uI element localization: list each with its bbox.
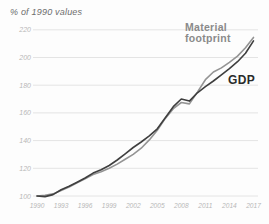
y-axis-unit-label: % of 1990 values xyxy=(10,7,82,17)
y-axis-tick-label: 180 xyxy=(19,82,31,89)
x-axis-tick-label: 2008 xyxy=(173,202,189,209)
x-axis-tick-label: 2011 xyxy=(197,202,213,209)
material-footprint-series-label: Material footprint xyxy=(185,22,249,44)
x-axis-tick-label: 1990 xyxy=(30,202,45,209)
x-axis-tick-label: 1996 xyxy=(78,202,93,209)
y-axis-tick-label: 140 xyxy=(19,137,31,144)
y-axis-tick-label: 220 xyxy=(18,26,31,33)
gdp-line xyxy=(37,41,254,197)
gdp-series-label: GDP xyxy=(228,73,255,87)
x-axis-tick-label: 2014 xyxy=(221,202,237,209)
y-axis-tick-label: 120 xyxy=(19,165,31,172)
x-axis-tick-label: 1999 xyxy=(102,202,117,209)
y-axis-tick-label: 160 xyxy=(19,109,31,116)
x-axis-tick-label: 1993 xyxy=(54,202,69,209)
x-axis-tick-label: 2002 xyxy=(125,202,141,209)
x-axis-tick-label: 2017 xyxy=(245,202,261,209)
x-axis-tick-label: 2005 xyxy=(149,202,165,209)
chart-panel: 1001201401601802002201990199319961999200… xyxy=(0,0,269,224)
y-axis-tick-label: 200 xyxy=(18,54,31,61)
y-axis-tick-label: 100 xyxy=(19,193,31,200)
material-footprint-line xyxy=(37,37,254,196)
